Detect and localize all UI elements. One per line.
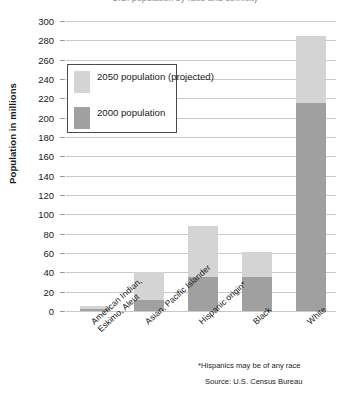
legend-label-2050-line2: (projected) (168, 71, 214, 82)
y-tick-mark (60, 176, 65, 177)
legend-label-2050: 2050 population (projected) (97, 71, 214, 83)
y-tick-label: 100 (10, 209, 54, 220)
y-tick-label: 80 (10, 228, 54, 239)
legend-swatch-2000 (74, 107, 90, 129)
y-tick-mark (60, 214, 65, 215)
y-tick-label: 300 (10, 16, 54, 27)
y-tick-mark (60, 292, 65, 293)
y-tick-label: 40 (10, 267, 54, 278)
source-note: Source: U.S. Census Bureau (205, 377, 303, 386)
bar-4 (242, 252, 272, 311)
y-tick-label: 20 (10, 286, 54, 297)
population-bar-chart: U.S. population by race and ethnicity Po… (0, 0, 348, 406)
bar-5 (296, 36, 326, 311)
legend-swatch-2050 (74, 71, 90, 93)
y-tick-label: 120 (10, 190, 54, 201)
y-tick-mark (60, 40, 65, 41)
y-tick-label: 180 (10, 132, 54, 143)
y-tick-mark (60, 79, 65, 80)
y-tick-label: 60 (10, 248, 54, 259)
bar-segment-2000 (296, 103, 326, 311)
y-tick-mark (60, 98, 65, 99)
y-tick-label: 260 (10, 54, 54, 65)
legend-item-2050: 2050 population (projected) (74, 71, 214, 93)
y-tick-mark (60, 253, 65, 254)
y-tick-mark (60, 272, 65, 273)
y-tick-mark (60, 311, 65, 312)
y-tick-mark (60, 118, 65, 119)
gridline (66, 21, 336, 22)
chart-title: U.S. population by race and ethnicity (70, 0, 300, 3)
y-tick-mark (60, 195, 65, 196)
legend-item-2000: 2000 population (74, 107, 165, 129)
y-tick-label: 0 (10, 306, 54, 317)
y-tick-mark (60, 137, 65, 138)
y-tick-mark (60, 21, 65, 22)
y-tick-mark (60, 156, 65, 157)
y-tick-label: 280 (10, 35, 54, 46)
y-tick-label: 220 (10, 93, 54, 104)
legend-label-2050-line1: 2050 population (97, 71, 165, 82)
y-tick-label: 140 (10, 170, 54, 181)
y-tick-mark (60, 60, 65, 61)
y-tick-label: 200 (10, 112, 54, 123)
y-tick-label: 160 (10, 151, 54, 162)
chart-legend: 2050 population (projected) 2000 populat… (67, 64, 177, 133)
footnote-hispanics: *Hispanics may be of any race (198, 361, 301, 370)
y-tick-label: 240 (10, 74, 54, 85)
legend-label-2000-line1: 2000 population (97, 107, 165, 118)
legend-label-2000: 2000 population (97, 107, 165, 119)
y-tick-mark (60, 234, 65, 235)
